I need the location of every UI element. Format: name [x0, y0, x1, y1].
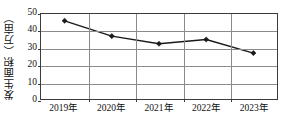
vertical-gridline	[231, 14, 232, 99]
y-axis-tick-mark	[38, 66, 41, 67]
data-point-marker	[62, 18, 67, 23]
y-axis-tick-label: 50	[28, 8, 38, 18]
vertical-gridline	[184, 14, 185, 99]
x-axis-tick-label: 2022年	[192, 104, 221, 114]
x-axis-tick-label: 2020年	[97, 104, 126, 114]
y-axis-tick-mark	[38, 31, 41, 32]
data-point-marker	[204, 37, 209, 42]
x-axis-tick-label: 2021年	[145, 104, 174, 114]
vertical-gridline	[136, 14, 137, 99]
y-axis-tick-mark	[38, 14, 41, 15]
y-axis-tick-label: 30	[28, 43, 38, 53]
x-axis-tick-labels: 2019年2020年2021年2022年2023年	[40, 101, 278, 121]
line-chart-figure: 发生面积（万亩） 01020304050 2019年2020年2021年2022…	[0, 0, 285, 133]
series-line-layer	[41, 14, 277, 99]
horizontal-gridline	[41, 49, 277, 50]
y-axis-tick-labels: 01020304050	[16, 0, 38, 133]
y-axis-tick-label: 20	[28, 60, 38, 70]
y-axis-tick-label: 0	[32, 95, 37, 105]
y-axis-tick-mark	[38, 49, 41, 50]
y-axis-tick-label: 10	[28, 78, 38, 88]
x-axis-tick-label: 2019年	[49, 104, 78, 114]
horizontal-gridline	[41, 31, 277, 32]
plot-area	[40, 13, 278, 100]
data-point-marker	[109, 34, 114, 39]
vertical-gridline	[89, 14, 90, 99]
horizontal-gridline	[41, 84, 277, 85]
y-axis-title-text: 发生面积（万亩）	[5, 12, 16, 100]
horizontal-gridline	[41, 66, 277, 67]
data-point-marker	[251, 51, 256, 56]
data-point-marker	[156, 41, 161, 46]
x-axis-tick-label: 2023年	[240, 104, 269, 114]
y-axis-tick-label: 40	[28, 26, 38, 36]
y-axis-tick-mark	[38, 84, 41, 85]
